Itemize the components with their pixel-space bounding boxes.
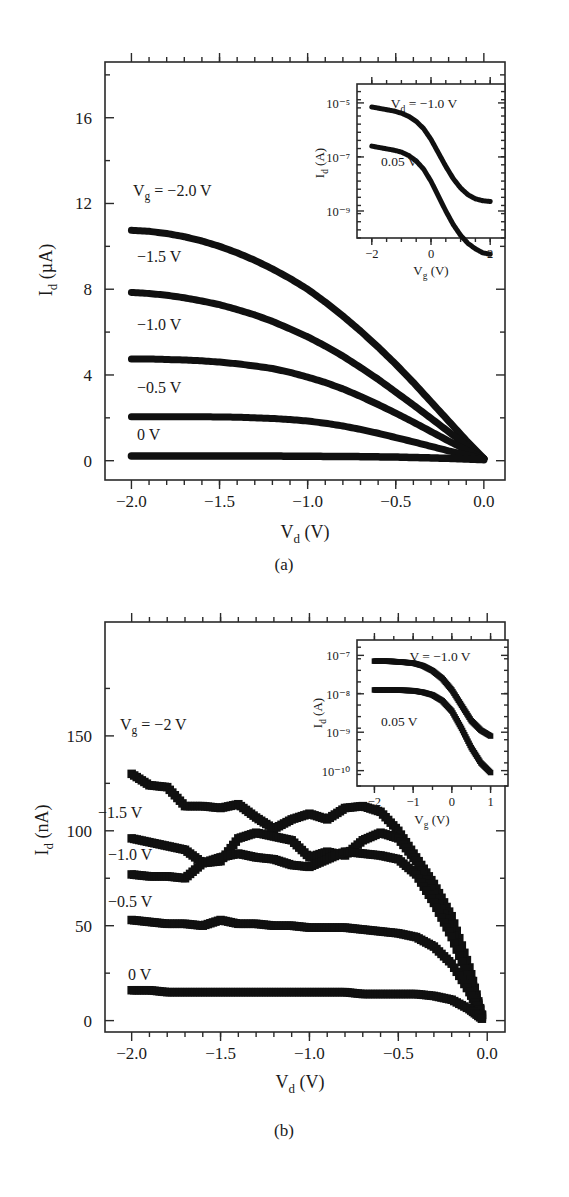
tick-label: 50: [75, 917, 92, 936]
tick-label: −0.5: [383, 1044, 414, 1063]
inset-b-xtick-labels: −2−101: [368, 795, 494, 809]
tick-label: 0: [449, 795, 455, 809]
panel-a-xtick-labels: −2.0−1.5−1.0−0.50.0: [116, 492, 494, 511]
inset-a-ytick-labels: 10⁻⁵10⁻⁷10⁻⁹: [326, 97, 350, 219]
series-label-b-neg0p5v: −0.5 V: [108, 893, 153, 910]
x-axis-unit: (V): [304, 522, 329, 543]
panel-a-inset: 10⁻⁵10⁻⁷10⁻⁹ −202 Id (A) Vg (V) Vd = −1.…: [312, 77, 505, 281]
series-label-b-vg-2v: Vg = −2 V: [120, 716, 187, 737]
tick-label: 0: [428, 247, 434, 261]
tick-label: −2: [365, 247, 378, 261]
svg-text:Id (A): Id (A): [310, 698, 328, 728]
series-label-neg1p0v: −1.0 V: [137, 316, 182, 333]
y-axis-unit: (µA): [36, 244, 57, 279]
tick-label: −1.5: [205, 1044, 236, 1063]
series-label-b-0v: 0 V: [128, 966, 152, 983]
inset-a-series-label-005: 0.05 V: [381, 154, 418, 169]
tick-label: −0.5: [380, 492, 411, 511]
series-label-b-neg1p0v: −1.0 V: [108, 846, 153, 863]
svg-text:Vd (V): Vd (V): [281, 522, 330, 546]
svg-text:Vg (V): Vg (V): [413, 263, 448, 281]
inset-ytick-label: 10⁻⁹: [326, 205, 350, 219]
figure-container: 0481216 −2.0−1.5−1.0−0.50.0 Id (µA) Vd (…: [0, 0, 569, 1197]
panel-a-svg: 0481216 −2.0−1.5−1.0−0.50.0 Id (µA) Vd (…: [0, 0, 569, 580]
tick-label: 0: [84, 452, 93, 471]
tick-label: 2: [487, 247, 493, 261]
svg-text:Id (nA): Id (nA): [32, 805, 56, 856]
tick-label: −1.0: [294, 1044, 325, 1063]
tick-label: 16: [75, 109, 92, 128]
inset-ytick-label: 10⁻⁵: [326, 97, 350, 111]
tick-label: 1: [487, 795, 493, 809]
panel-b: 050100150 −2.0−1.5−1.0−0.50.0 Id (nA) Vd…: [0, 580, 569, 1197]
series-label-b-neg1p5v: −1.5 V: [98, 804, 143, 821]
inset-b-ytick-labels: 10⁻⁷10⁻⁸10⁻⁹10⁻¹⁰: [322, 649, 350, 778]
inset-ytick-label: 10⁻⁷: [326, 151, 350, 165]
series-label-0v: 0 V: [137, 426, 161, 443]
inset-ytick-label: 10⁻¹⁰: [322, 765, 350, 779]
tick-label: −1: [406, 795, 419, 809]
inset-a-x-axis-title: Vg (V): [413, 263, 448, 281]
svg-text:Id (µA): Id (µA): [36, 244, 60, 296]
tick-label: 4: [84, 366, 93, 385]
caption-b: (b): [274, 1121, 294, 1140]
inset-ytick-label: 10⁻⁸: [326, 688, 350, 702]
tick-label: 8: [84, 280, 93, 299]
series-label-neg0p5v: −0.5 V: [137, 379, 182, 396]
inset-b-series-label-v: V = −1.0 V: [409, 649, 470, 664]
inset-b-x-axis-title: Vg (V): [414, 812, 449, 830]
series-label-neg1p5v: −1.5 V: [137, 248, 182, 265]
tick-label: 150: [67, 727, 93, 746]
x-axis-symbol: V: [281, 522, 294, 542]
svg-text:Vg (V): Vg (V): [414, 812, 449, 830]
tick-label: 100: [67, 822, 93, 841]
panel-b-xtick-labels: −2.0−1.5−1.0−0.50.0: [116, 1044, 498, 1063]
panel-a: 0481216 −2.0−1.5−1.0−0.50.0 Id (µA) Vd (…: [0, 0, 569, 580]
tick-label: −1.5: [204, 492, 235, 511]
tick-label: 12: [75, 194, 92, 213]
inset-ytick-label: 10⁻⁷: [326, 649, 350, 663]
panel-b-svg: 050100150 −2.0−1.5−1.0−0.50.0 Id (nA) Vd…: [0, 580, 569, 1197]
inset-ytick-label: 10⁻⁹: [326, 726, 350, 740]
panel-b-y-axis-title: Id (nA): [32, 805, 56, 856]
panel-a-y-axis-title: Id (µA): [36, 244, 60, 296]
inset-b-y-axis-title: Id (A): [310, 698, 328, 728]
panel-b-inset: 10⁻⁷10⁻⁸10⁻⁹10⁻¹⁰ −2−101 Id (A) Vg (V) V…: [310, 633, 508, 830]
tick-label: 0: [84, 1012, 93, 1031]
panel-a-x-axis-title: Vd (V): [281, 522, 330, 546]
series-label-vg-2v: Vg = −2.0 V: [133, 182, 212, 203]
tick-label: −2.0: [116, 1044, 147, 1063]
caption-a: (a): [275, 555, 294, 574]
tick-label: −1.0: [292, 492, 323, 511]
panel-a-ytick-labels: 0481216: [75, 109, 93, 471]
tick-label: 0.0: [473, 492, 494, 511]
inset-b-series-label-005: 0.05 V: [381, 714, 418, 729]
tick-label: −2: [368, 795, 381, 809]
svg-text:Vd (V): Vd (V): [276, 1072, 325, 1096]
tick-label: 0.0: [477, 1044, 498, 1063]
panel-b-ytick-labels: 050100150: [67, 727, 93, 1031]
tick-label: −2.0: [116, 492, 147, 511]
panel-b-x-axis-title: Vd (V): [276, 1072, 325, 1096]
panel-b-data-series: [127, 770, 486, 1023]
